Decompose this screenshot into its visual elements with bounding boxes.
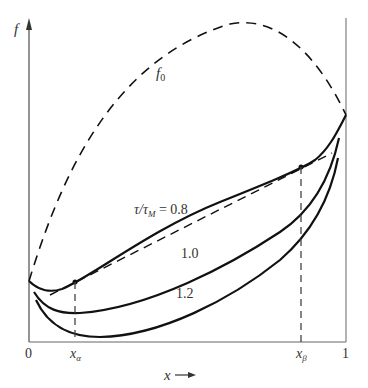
curve-1.0-label: 1.0 — [181, 246, 199, 261]
x-tick-beta: xβ — [295, 346, 307, 363]
curve-0.8-label: τ/τM = 0.8 — [134, 202, 188, 219]
y-axis-label: f — [14, 21, 20, 37]
x-tick-alpha: xα — [69, 346, 81, 363]
free-energy-diagram: f f0 τ/τM = 0.8 1.0 1.2 0 xα xβ 1 x — [0, 0, 368, 388]
curve-1.2-label: 1.2 — [176, 286, 194, 301]
y-axis-arrow-icon — [26, 18, 32, 30]
x-tick-zero: 0 — [25, 346, 32, 361]
f0-label: f0 — [156, 65, 165, 83]
x-tick-one: 1 — [342, 346, 349, 361]
x-axis-arrow-icon — [175, 372, 196, 378]
x-axis-label: x — [163, 367, 171, 383]
